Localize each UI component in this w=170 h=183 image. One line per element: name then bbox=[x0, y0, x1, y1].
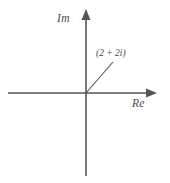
imaginary-axis-label: Im bbox=[57, 12, 70, 24]
point-vector-line bbox=[86, 62, 113, 93]
axes-canvas bbox=[0, 0, 170, 183]
complex-plane-figure: Im Re (2 + 2i) bbox=[0, 0, 170, 183]
up-arrow-icon bbox=[82, 9, 91, 20]
real-axis-label: Re bbox=[132, 97, 145, 109]
right-arrow-icon bbox=[146, 89, 157, 98]
point-label: (2 + 2i) bbox=[96, 48, 126, 58]
